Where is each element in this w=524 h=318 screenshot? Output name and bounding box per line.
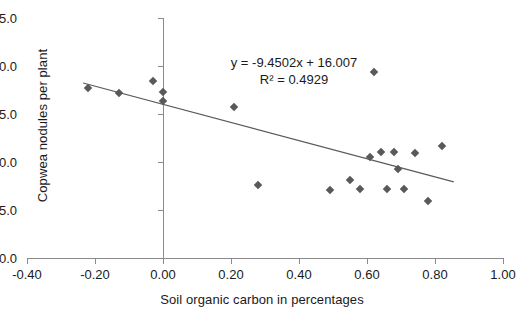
x-tick-label: 0.40 — [264, 268, 334, 281]
x-tick — [163, 258, 164, 264]
plot-area: 0.05.010.015.020.025.0 -0.40-0.200.000.2… — [27, 18, 503, 258]
x-tick-label: 0.80 — [400, 268, 470, 281]
y-tick-label: 0.0 — [0, 252, 17, 265]
x-tick — [503, 258, 504, 264]
r-squared-text: R² = 0.4929 — [209, 71, 379, 88]
regression-equation-text: y = -9.4502x + 16.007 — [209, 54, 379, 71]
x-tick-label: -0.40 — [0, 268, 62, 281]
x-tick — [27, 258, 28, 264]
regression-annotation: y = -9.4502x + 16.007 R² = 0.4929 — [209, 54, 379, 88]
y-tick-label: 15.0 — [0, 108, 17, 121]
x-axis-title: Soil organic carbon in percentages — [0, 292, 524, 307]
x-tick — [231, 258, 232, 264]
y-tick-label: 20.0 — [0, 60, 17, 73]
x-tick — [435, 258, 436, 264]
x-tick-label: 0.00 — [128, 268, 198, 281]
x-tick — [367, 258, 368, 264]
x-tick — [95, 258, 96, 264]
x-tick-label: 0.60 — [332, 268, 402, 281]
y-tick-label: 10.0 — [0, 156, 17, 169]
x-tick — [299, 258, 300, 264]
x-tick-label: 0.20 — [196, 268, 266, 281]
x-tick-label: 1.00 — [468, 268, 524, 281]
scatter-chart: Copwea nodules per plant 0.05.010.015.02… — [0, 0, 524, 318]
y-tick-label: 25.0 — [0, 12, 17, 25]
x-tick-label: -0.20 — [60, 268, 130, 281]
y-tick-label: 5.0 — [0, 204, 17, 217]
x-axis-line — [27, 258, 503, 259]
